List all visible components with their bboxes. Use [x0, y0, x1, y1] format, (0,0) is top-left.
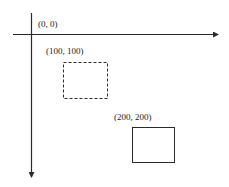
- box-at-100-100: [64, 63, 108, 99]
- box-at-200-200: [133, 128, 175, 163]
- box2-coordinate-label: (200, 200): [114, 113, 152, 122]
- origin-label: (0, 0): [38, 20, 58, 29]
- coordinate-diagram: [0, 0, 229, 187]
- box1-coordinate-label: (100, 100): [46, 47, 84, 56]
